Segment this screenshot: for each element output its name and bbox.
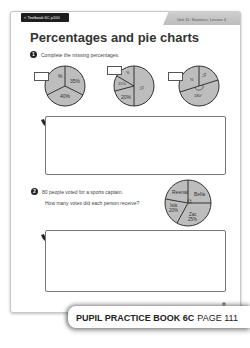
textbook-back-tab[interactable]: < Textbook 6C p100 (21, 13, 69, 22)
question-1-text: Complete the missing percentages. (41, 52, 119, 58)
svg-text:40%: 40% (60, 93, 71, 99)
answer-box-2[interactable] (45, 230, 226, 292)
page-title: Percentages and pie charts (30, 30, 199, 45)
svg-text:%: % (126, 70, 130, 75)
footer-label: PUPIL PRACTICE BOOK 6CPAGE 111 (76, 313, 238, 323)
pie-1-answer-box[interactable] (34, 72, 49, 81)
question-1-number: 1 (30, 51, 37, 58)
svg-text:180°: 180° (194, 93, 203, 98)
svg-text:%: % (190, 77, 194, 82)
unit-label-tab: Unit 11: Statistics, Lesson 4 (163, 11, 240, 25)
svg-text:15%: 15% (118, 81, 126, 86)
answer-box-1[interactable] (45, 116, 226, 175)
pie-chart-3: % ¼ 180° (177, 64, 221, 108)
svg-text:Bella: Bella (194, 191, 205, 197)
question-2-line-1: 80 people voted for a sports captain. (42, 189, 123, 195)
svg-text:20%: 20% (121, 94, 132, 100)
pie-3-answer-box[interactable] (168, 72, 183, 81)
pie-2-answer-box[interactable] (107, 66, 122, 75)
footer-page-number: PAGE 111 (197, 313, 238, 323)
question-2-number: 2 (31, 188, 38, 195)
footer-book-name: PUPIL PRACTICE BOOK 6C (76, 313, 194, 323)
svg-text:%: % (58, 73, 63, 79)
svg-text:20%: 20% (169, 208, 178, 213)
votes-pie-chart: Reenal Bella Isla 20% Zac 25% (163, 178, 213, 228)
svg-text:25%: 25% (188, 217, 197, 222)
svg-text:35%: 35% (70, 78, 81, 84)
question-2-line-2: How many votes did each person receive? (45, 200, 139, 206)
svg-text:Reenal: Reenal (172, 189, 188, 195)
pie-chart-1: % 35% 40% (43, 64, 87, 108)
